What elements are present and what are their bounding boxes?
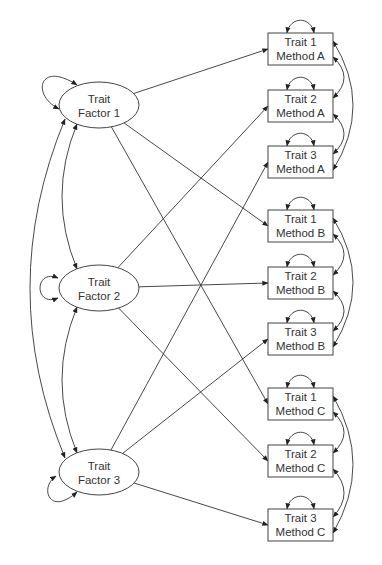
trait-factor-3: TraitFactor 3 xyxy=(59,449,139,495)
method-covariance-c-1-3 xyxy=(333,396,353,533)
factor-ellipse xyxy=(59,265,139,311)
factor-label-line1: Trait xyxy=(88,93,111,105)
factor-label-line2: Factor 2 xyxy=(78,290,120,302)
loading-arrow-f3-t3a xyxy=(111,162,268,450)
method-covariance-b-2-3 xyxy=(333,291,344,331)
loading-arrow-f3-t3c xyxy=(134,483,268,525)
indicator-label-trait: Trait 1 xyxy=(284,36,316,48)
factor-ellipse xyxy=(59,82,139,128)
indicator-label-method: Method B xyxy=(276,227,326,239)
error-variance-loop-t2c xyxy=(287,432,314,445)
indicator-t2c: Trait 2Method C xyxy=(268,445,333,477)
trait-factor-1: TraitFactor 1 xyxy=(59,82,139,128)
factor-label-line1: Trait xyxy=(88,460,111,472)
indicator-label-trait: Trait 2 xyxy=(284,93,316,105)
indicator-t2a: Trait 2Method A xyxy=(268,90,333,122)
loading-arrow-f1-t1a xyxy=(134,49,268,94)
indicator-t1b: Trait 1Method B xyxy=(268,210,333,242)
loading-arrow-f1-t1b xyxy=(124,123,268,226)
error-variance-loop-t2a xyxy=(287,77,314,90)
factor-covariance-f2-f3 xyxy=(62,307,77,453)
error-variance-loop-t3a xyxy=(287,133,314,146)
mtmm-path-diagram: TraitFactor 1TraitFactor 2TraitFactor 3T… xyxy=(0,0,382,565)
indicator-t1a: Trait 1Method A xyxy=(268,33,333,65)
variance-loop-f2 xyxy=(40,276,58,299)
factor-covariance-f1-f2 xyxy=(62,124,77,269)
method-covariance-a-1-2 xyxy=(333,57,344,98)
indicator-label-trait: Trait 1 xyxy=(284,213,316,225)
indicator-t2b: Trait 2Method B xyxy=(268,267,333,299)
indicator-label-method: Method B xyxy=(276,340,326,352)
loading-arrow-f2-t2c xyxy=(119,308,268,461)
indicator-t3a: Trait 3Method A xyxy=(268,146,333,178)
loading-arrow-f2-t2a xyxy=(118,106,268,268)
indicator-label-trait: Trait 3 xyxy=(284,326,316,338)
indicator-label-method: Method C xyxy=(276,462,326,474)
indicator-label-method: Method C xyxy=(276,526,326,538)
factor-ellipse xyxy=(59,449,139,495)
indicator-label-method: Method B xyxy=(276,284,326,296)
factor-label-line1: Trait xyxy=(88,276,111,288)
indicator-label-trait: Trait 3 xyxy=(284,512,316,524)
indicator-label-method: Method C xyxy=(276,405,326,417)
error-variance-loop-t1a xyxy=(287,20,314,33)
error-variance-loop-t1c xyxy=(287,375,314,388)
indicator-label-trait: Trait 2 xyxy=(284,270,316,282)
factor-label-line2: Factor 1 xyxy=(78,107,120,119)
error-variance-loop-t3b xyxy=(287,310,314,323)
method-covariance-c-2-3 xyxy=(333,469,344,517)
method-covariance-a-2-3 xyxy=(333,114,344,154)
factor-label-line2: Factor 3 xyxy=(78,474,120,486)
loading-arrow-f1-t1c xyxy=(111,127,268,404)
indicator-label-trait: Trait 1 xyxy=(284,391,316,403)
indicator-label-method: Method A xyxy=(276,50,325,62)
trait-factor-2: TraitFactor 2 xyxy=(59,265,139,311)
indicator-label-method: Method A xyxy=(276,107,325,119)
indicator-label-method: Method A xyxy=(276,163,325,175)
error-variance-loop-t1b xyxy=(287,197,314,210)
indicator-t1c: Trait 1Method C xyxy=(268,388,333,420)
nodes-layer: TraitFactor 1TraitFactor 2TraitFactor 3T… xyxy=(59,33,333,541)
indicator-t3c: Trait 3Method C xyxy=(268,509,333,541)
error-variance-loop-t2b xyxy=(287,254,314,267)
indicator-label-trait: Trait 3 xyxy=(284,149,316,161)
indicator-t3b: Trait 3Method B xyxy=(268,323,333,355)
loading-arrow-f3-t3b xyxy=(123,339,268,453)
method-covariance-c-1-2 xyxy=(333,412,344,453)
error-variance-loop-t3c xyxy=(287,496,314,509)
method-covariance-b-1-2 xyxy=(333,234,344,275)
indicator-label-trait: Trait 2 xyxy=(284,448,316,460)
loading-arrow-f2-t2b xyxy=(139,283,268,287)
